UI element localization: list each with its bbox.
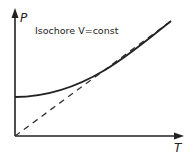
y-axis-label: P — [20, 11, 28, 25]
dashed-isochore-line — [15, 21, 171, 136]
diagram-title: Isochore V=const — [35, 25, 119, 36]
x-axis-label: T — [174, 141, 183, 155]
isochore-diagram: P T Isochore V=const — [0, 0, 193, 157]
y-axis-arrow-icon — [12, 8, 19, 18]
x-axis-arrow-icon — [174, 133, 184, 140]
